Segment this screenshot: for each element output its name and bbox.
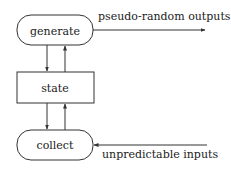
generate-label: generate	[30, 25, 80, 38]
collect-label: collect	[37, 139, 74, 152]
edge-input: unpredictable inputs	[94, 145, 218, 161]
input-label: unpredictable inputs	[102, 148, 218, 161]
diagram-svg: generate state collect pseudo-random out…	[0, 0, 231, 173]
node-collect: collect	[17, 130, 93, 160]
state-label: state	[41, 82, 69, 95]
node-state: state	[17, 72, 94, 103]
edge-output: pseudo-random outputs	[93, 10, 231, 30]
node-generate: generate	[17, 15, 93, 45]
output-label: pseudo-random outputs	[98, 10, 231, 23]
prng-diagram: generate state collect pseudo-random out…	[0, 0, 231, 173]
